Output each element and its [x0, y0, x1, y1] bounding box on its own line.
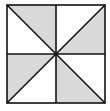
outline-lines: [7, 5, 105, 103]
pinwheel-diagram: [0, 0, 110, 111]
